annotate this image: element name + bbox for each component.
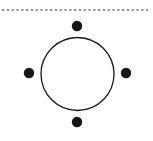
right-point-marker <box>121 68 131 78</box>
diagram-canvas <box>0 0 153 141</box>
left-point-marker <box>24 68 34 78</box>
figure-container: A thin circle outline with four small fi… <box>0 0 153 141</box>
bottom-point-marker <box>72 117 82 127</box>
top-point-marker <box>72 21 82 31</box>
